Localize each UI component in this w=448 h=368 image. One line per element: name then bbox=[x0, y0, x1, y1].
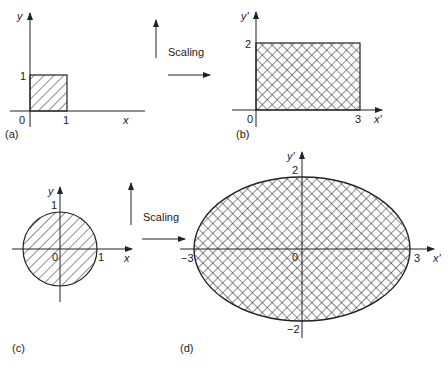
x-axis-label: x' bbox=[373, 113, 383, 125]
scaling-label: Scaling bbox=[143, 211, 179, 223]
x-axis-label: x bbox=[122, 114, 129, 126]
origin-label: 0 bbox=[292, 251, 298, 263]
origin-label: 0 bbox=[52, 251, 58, 263]
panel-a: y x 0 1 1 (a) bbox=[5, 10, 145, 140]
x-tick-pos-label: 3 bbox=[414, 252, 420, 264]
x-tick-label: 3 bbox=[355, 113, 361, 125]
caption-b: (b) bbox=[236, 128, 249, 140]
panel-b: y' x' 0 3 2 (b) bbox=[232, 10, 383, 140]
caption-c: (c) bbox=[12, 342, 25, 354]
x-axis-label: x bbox=[123, 252, 130, 264]
scaled-rectangle bbox=[256, 43, 360, 110]
panel-c: y x 0 1 1 (c) bbox=[12, 185, 132, 354]
origin-label: 0 bbox=[19, 114, 25, 126]
origin-label: 0 bbox=[247, 113, 253, 125]
y-tick-label: 1 bbox=[51, 199, 57, 211]
y-tick-pos-label: 2 bbox=[292, 164, 298, 176]
y-axis-label: y bbox=[16, 10, 24, 22]
panel-d: y' x' 0 3 −3 2 −2 (d) bbox=[180, 150, 442, 354]
x-tick-label: 1 bbox=[63, 114, 69, 126]
scaling-label: Scaling bbox=[168, 46, 204, 58]
y-axis-label: y' bbox=[286, 150, 296, 162]
y-tick-label: 2 bbox=[245, 38, 251, 50]
y-tick-label: 1 bbox=[20, 70, 26, 82]
caption-a: (a) bbox=[5, 128, 18, 140]
caption-d: (d) bbox=[180, 342, 193, 354]
unit-square bbox=[30, 75, 67, 111]
y-axis-label: y' bbox=[240, 10, 250, 22]
x-tick-neg-label: −3 bbox=[181, 252, 194, 264]
transform-top: Scaling bbox=[156, 20, 210, 75]
scaling-diagram: y x 0 1 1 (a) Scaling y' x' 0 3 2 (b) y … bbox=[0, 0, 448, 368]
y-tick-neg-label: −2 bbox=[287, 323, 300, 335]
y-axis-label: y bbox=[47, 185, 55, 197]
x-axis-label: x' bbox=[432, 252, 442, 264]
x-tick-label: 1 bbox=[98, 251, 104, 263]
transform-bottom: Scaling bbox=[131, 183, 185, 239]
